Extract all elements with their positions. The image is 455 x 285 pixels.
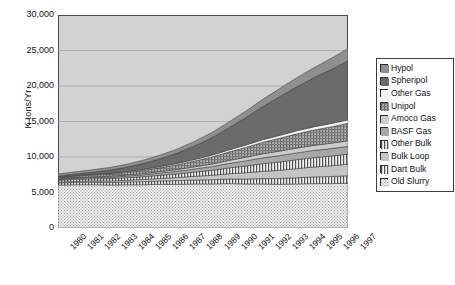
legend-item-dart-bulk[interactable]: Dart Bulk — [380, 163, 451, 176]
x-axis-tick-label: 1994 — [307, 232, 327, 252]
x-axis-tick-label: 1989 — [222, 232, 242, 252]
legend-swatch-icon — [380, 165, 388, 173]
legend-swatch-icon — [380, 64, 388, 72]
legend-swatch-icon — [380, 178, 388, 186]
legend-swatch-icon — [380, 127, 388, 135]
legend-swatch-icon — [380, 152, 388, 160]
legend-swatch-icon — [380, 102, 388, 110]
x-axis-tick-label: 1983 — [120, 232, 140, 252]
chart-legend: HypolSpheripolOther GasUnipolAmoco GasBA… — [376, 58, 454, 192]
x-axis-tick-label: 1991 — [256, 232, 276, 252]
legend-item-basf-gas[interactable]: BASF Gas — [380, 125, 451, 138]
x-axis-tick-label: 1980 — [69, 232, 89, 252]
x-axis-tick-label: 1997 — [359, 232, 379, 252]
x-axis-tick-label: 1995 — [324, 232, 344, 252]
legend-item-spheripol[interactable]: Spheripol — [380, 75, 451, 88]
legend-label: Amoco Gas — [391, 114, 436, 123]
legend-label: BASF Gas — [391, 127, 432, 136]
x-axis-tick-label: 1996 — [341, 232, 361, 252]
legend-item-amoco-gas[interactable]: Amoco Gas — [380, 112, 451, 125]
legend-item-bulk-loop[interactable]: Bulk Loop — [380, 150, 451, 163]
legend-label: Unipol — [391, 102, 415, 111]
legend-label: Spheripol — [391, 76, 427, 85]
x-axis-tick-label: 1993 — [290, 232, 310, 252]
legend-item-hypol[interactable]: Hypol — [380, 62, 451, 75]
legend-label: Other Bulk — [391, 139, 432, 148]
x-axis-tick-label: 1990 — [239, 232, 259, 252]
legend-label: Other Gas — [391, 89, 431, 98]
x-axis-tick-label: 1984 — [137, 232, 157, 252]
legend-label: Hypol — [391, 64, 413, 73]
legend-item-other-bulk[interactable]: Other Bulk — [380, 138, 451, 151]
x-axis-tick-label: 1992 — [273, 232, 293, 252]
legend-swatch-icon — [380, 115, 388, 123]
legend-swatch-icon — [380, 140, 388, 148]
legend-label: Dart Bulk — [391, 165, 426, 174]
stacked-area-chart: K tons/Yr 05,00010,00015,00020,00025,000… — [0, 0, 455, 285]
legend-swatch-icon — [380, 89, 388, 97]
legend-item-unipol[interactable]: Unipol — [380, 100, 451, 113]
legend-swatch-icon — [380, 77, 388, 85]
x-axis-tick-label: 1981 — [86, 232, 106, 252]
legend-label: Bulk Loop — [391, 152, 429, 161]
x-axis-tick-label: 1988 — [205, 232, 225, 252]
x-axis-tick-label: 1985 — [154, 232, 174, 252]
legend-item-other-gas[interactable]: Other Gas — [380, 87, 451, 100]
x-axis-tick-label: 1982 — [103, 232, 123, 252]
legend-item-old-slurry[interactable]: Old Slurry — [380, 175, 451, 188]
legend-label: Old Slurry — [391, 177, 429, 186]
